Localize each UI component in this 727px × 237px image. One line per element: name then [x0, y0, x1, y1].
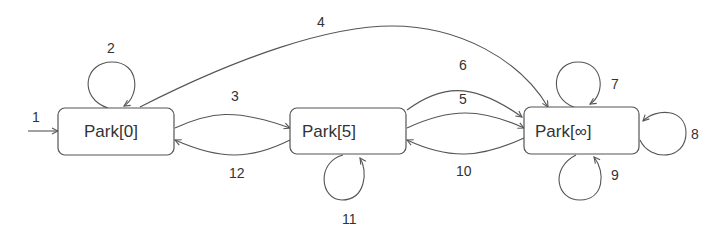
- edge-3: [175, 114, 290, 128]
- edge-label-3: 3: [231, 88, 239, 104]
- node-label-park-0: Park[0]: [84, 122, 138, 141]
- edge-2: [88, 62, 135, 108]
- node-label-park-5: Park[5]: [302, 122, 356, 141]
- node-label-park-infinity: Park[∞]: [535, 122, 592, 141]
- edge-8: [640, 112, 686, 155]
- edge-label-6: 6: [459, 57, 467, 73]
- edge-label-11: 11: [342, 211, 357, 227]
- node-park-0: Park[0]: [58, 108, 174, 155]
- edge-9: [559, 155, 601, 200]
- node-park-infinity: Park[∞]: [524, 107, 639, 154]
- edge-10: [407, 138, 524, 154]
- edge-label-2: 2: [107, 40, 115, 56]
- edge-label-9: 9: [611, 167, 619, 183]
- edge-label-10: 10: [456, 163, 472, 179]
- edge-5: [407, 113, 524, 128]
- edge-label-5: 5: [459, 91, 467, 107]
- edge-label-8: 8: [691, 126, 699, 142]
- edge-label-7: 7: [611, 76, 619, 92]
- edge-7: [556, 62, 600, 107]
- node-park-5: Park[5]: [290, 108, 406, 154]
- edge-11: [324, 155, 364, 200]
- edge-label-12: 12: [229, 165, 245, 181]
- edge-label-1: 1: [32, 109, 40, 125]
- edge-4: [140, 26, 548, 107]
- edge-label-4: 4: [317, 14, 325, 30]
- state-diagram: 1 2 3 4 5 6 7 8 9 10 11 12 Park[0] Park[…: [0, 0, 727, 237]
- edge-12: [175, 140, 290, 155]
